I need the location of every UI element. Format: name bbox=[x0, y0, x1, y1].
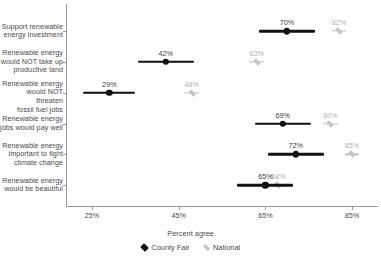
national-data-point[interactable] bbox=[348, 151, 356, 159]
x-axis-line bbox=[66, 206, 378, 207]
county-fair-value-label: 72% bbox=[288, 141, 302, 150]
county-fair-data-point[interactable] bbox=[284, 28, 290, 34]
category-label: Renewable energy would NOT threaten foss… bbox=[0, 80, 63, 114]
county-fair-value-label: 69% bbox=[275, 111, 289, 120]
county-fair-value-label: 42% bbox=[158, 49, 172, 58]
dot-plot-chart: Support renewable energy investmentRenew… bbox=[0, 0, 381, 259]
category-label-column: Support renewable energy investmentRenew… bbox=[0, 0, 63, 210]
y-axis-tick bbox=[63, 62, 66, 63]
county-fair-value-label: 29% bbox=[102, 80, 116, 89]
category-label: Renewable energy jobs would pay well bbox=[0, 115, 63, 132]
national-data-point[interactable] bbox=[335, 27, 343, 35]
y-axis-tick bbox=[63, 31, 66, 32]
x-axis-tick bbox=[179, 207, 180, 210]
legend-label-county-fair: County Fair bbox=[151, 243, 189, 252]
y-axis-tick bbox=[63, 124, 66, 125]
chart-legend: County Fair National bbox=[0, 243, 381, 252]
legend-item-county-fair[interactable]: County Fair bbox=[141, 243, 190, 252]
national-value-label: 80% bbox=[323, 111, 337, 120]
national-value-label: 82% bbox=[332, 18, 346, 27]
national-value-label: 85% bbox=[345, 141, 359, 150]
x-axis-tick-label: 65% bbox=[258, 211, 272, 220]
national-data-point[interactable] bbox=[188, 89, 196, 97]
county-fair-data-point[interactable] bbox=[292, 151, 298, 157]
category-label: Renewable energy important to fight clim… bbox=[2, 142, 63, 168]
national-value-label: 68% bbox=[271, 172, 285, 181]
county-fair-value-label: 65% bbox=[258, 172, 272, 181]
x-axis-tick bbox=[265, 207, 266, 210]
county-fair-data-point[interactable] bbox=[106, 90, 112, 96]
x-axis-tick bbox=[352, 207, 353, 210]
county-fair-value-label: 70% bbox=[280, 18, 294, 27]
plot-area: 25%45%65%85%82%70%63%42%48%29%80%69%85%7… bbox=[66, 4, 378, 207]
diamond-icon bbox=[140, 243, 149, 252]
x-axis-title: Percent agree bbox=[0, 229, 381, 238]
x-axis-tick-label: 85% bbox=[345, 211, 359, 220]
national-value-label: 48% bbox=[184, 80, 198, 89]
category-label: Renewable energy would NOT take up produ… bbox=[1, 49, 63, 75]
county-fair-data-point[interactable] bbox=[262, 182, 268, 188]
national-value-label: 63% bbox=[249, 49, 263, 58]
legend-label-national: National bbox=[213, 243, 240, 252]
national-data-point[interactable] bbox=[253, 58, 261, 66]
x-axis-tick bbox=[92, 207, 93, 210]
category-label: Renewable energy would be beautiful bbox=[2, 177, 63, 194]
legend-item-national[interactable]: National bbox=[203, 243, 241, 252]
y-axis-line bbox=[66, 4, 67, 207]
y-axis-tick bbox=[63, 154, 66, 155]
county-fair-data-point[interactable] bbox=[162, 59, 168, 65]
y-axis-tick bbox=[63, 185, 66, 186]
y-axis-tick bbox=[63, 93, 66, 94]
diamond-icon bbox=[202, 244, 209, 251]
x-axis-tick-label: 25% bbox=[85, 211, 99, 220]
x-axis-tick-label: 45% bbox=[171, 211, 185, 220]
county-fair-data-point[interactable] bbox=[279, 120, 285, 126]
category-label: Support renewable energy investment bbox=[2, 23, 63, 40]
national-data-point[interactable] bbox=[326, 120, 334, 128]
